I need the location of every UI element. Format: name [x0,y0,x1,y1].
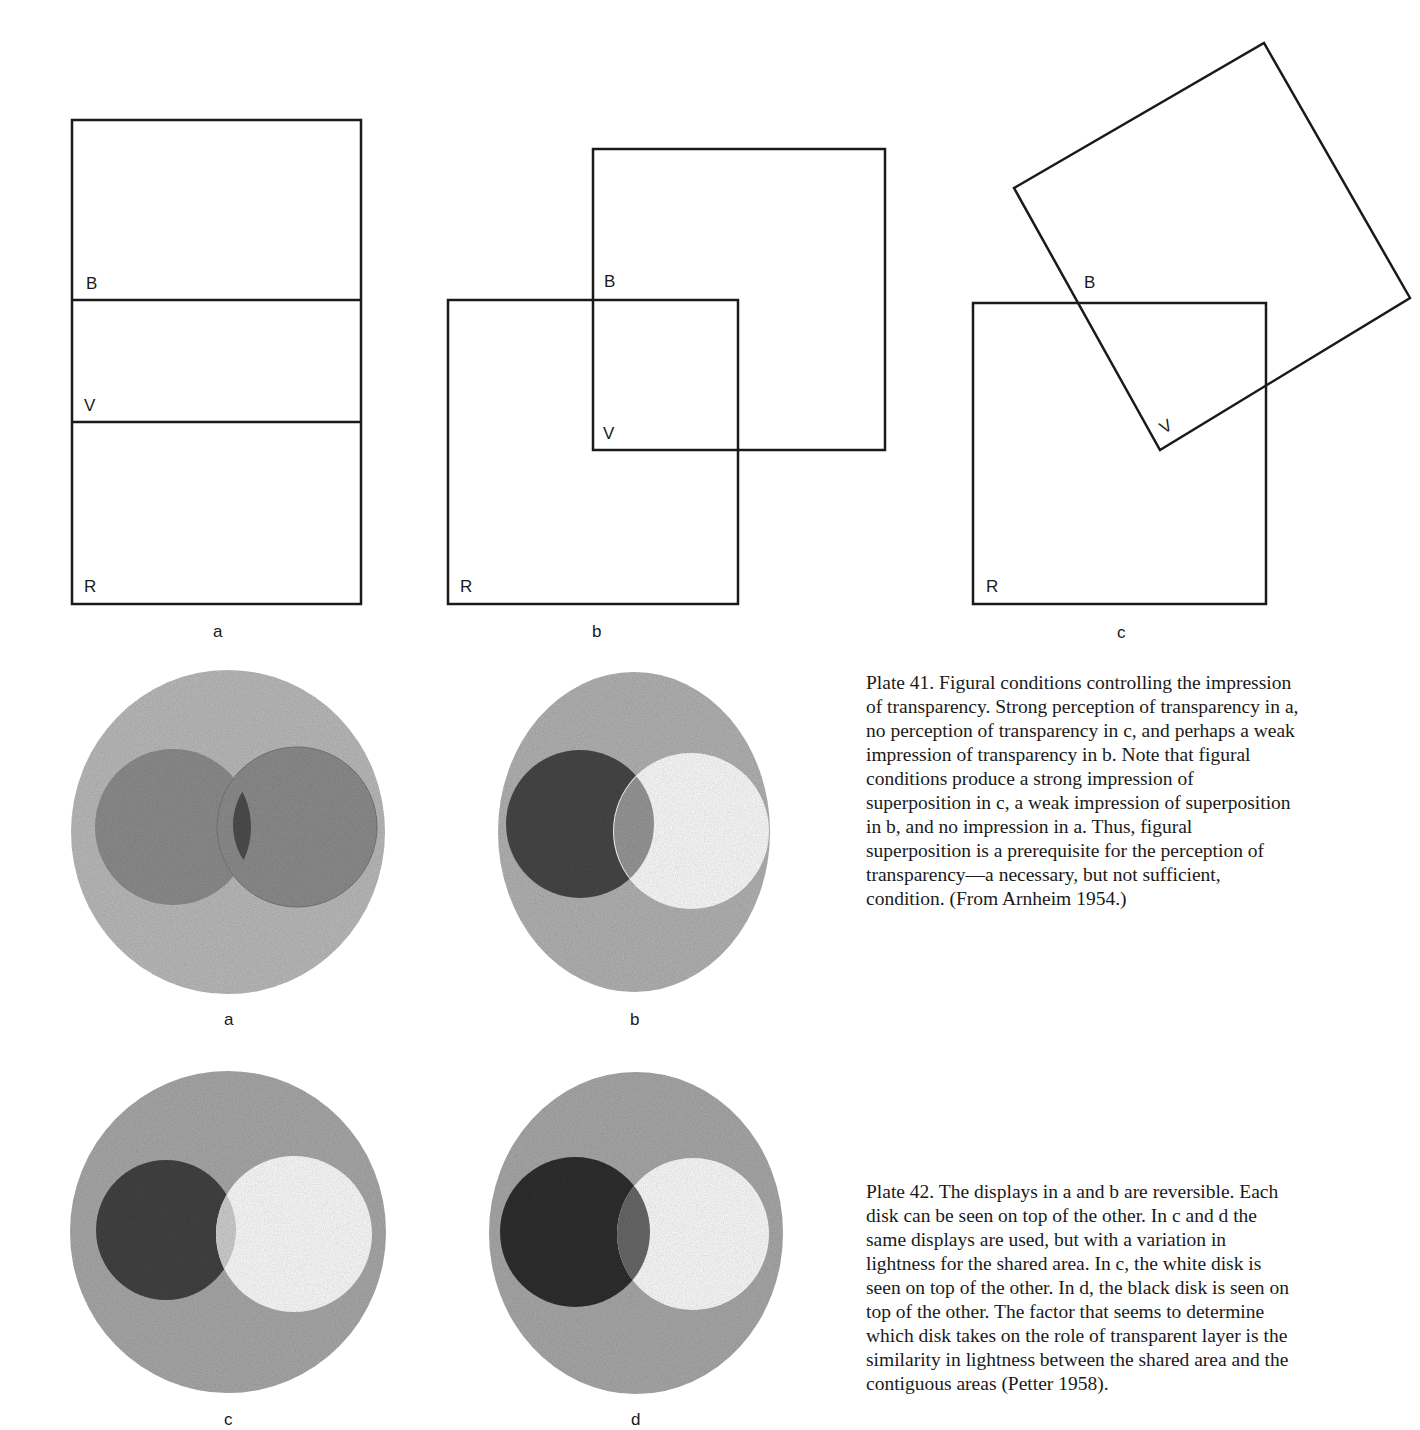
caption-line: of transparency. Strong perception of tr… [866,695,1406,719]
caption-line: conditions produce a strong impression o… [866,767,1406,791]
fig-a-label-R: R [84,577,96,596]
fig-a-outer-rect [72,120,361,604]
caption-line: Plate 41. Figural conditions controlling… [866,671,1406,695]
caption-line: impression of transparency in b. Note th… [866,743,1406,767]
fig-c-rotated-square [1014,43,1410,450]
fig-c-sublabel: c [1117,623,1126,642]
plate42-figure-a [71,670,385,994]
plate42-fig-a-sublabel: a [224,1010,234,1029]
caption-line: which disk takes on the role of transpar… [866,1324,1406,1348]
fig-a-sublabel: a [213,622,223,641]
caption-line: contiguous areas (Petter 1958). [866,1372,1406,1396]
fig-a-label-V: V [84,396,96,415]
fig-b-sublabel: b [592,622,601,641]
fig-b-label-V: V [603,424,615,443]
caption-line: disk can be seen on top of the other. In… [866,1204,1406,1228]
plate42-figure-c [70,1071,386,1393]
caption-line: seen on top of the other. In d, the blac… [866,1276,1406,1300]
caption-line: in b, and no impression in a. Thus, figu… [866,815,1406,839]
fig-b-label-B: B [604,272,615,291]
fig-c-lower-square [973,303,1266,604]
caption-line: top of the other. The factor that seems … [866,1300,1406,1324]
plate42-fig-b-sublabel: b [630,1010,639,1029]
plate-41-figures: B V R a B V R b B V R c [0,0,1420,660]
caption-line: superposition is a prerequisite for the … [866,839,1406,863]
plate-41-caption: Plate 41. Figural conditions controlling… [866,671,1406,911]
caption-line: transparency—a necessary, but not suffic… [866,863,1406,887]
fig-a-label-B: B [86,274,97,293]
caption-line: similarity in lightness between the shar… [866,1348,1406,1372]
caption-line: condition. (From Arnheim 1954.) [866,887,1406,911]
caption-line: Plate 42. The displays in a and b are re… [866,1180,1406,1204]
caption-line: lightness for the shared area. In c, the… [866,1252,1406,1276]
fig-b-label-R: R [460,577,472,596]
plate42-figure-d [489,1072,783,1394]
plate41-figure-b [448,149,885,604]
caption-line: superposition in c, a weak impression of… [866,791,1406,815]
caption-line: same displays are used, but with a varia… [866,1228,1406,1252]
plate42-fig-d-sublabel: d [631,1410,640,1429]
fig-c-label-B: B [1084,273,1095,292]
plate-42-caption: Plate 42. The displays in a and b are re… [866,1180,1406,1396]
plate42-figure-b [498,672,770,992]
plate42-fig-c-sublabel: c [224,1410,233,1429]
plate41-figure-a [72,120,361,604]
caption-line: no perception of transparency in c, and … [866,719,1406,743]
fig-c-label-R: R [986,577,998,596]
plate41-figure-c [973,43,1410,604]
fig-c-label-V: V [1156,415,1176,437]
